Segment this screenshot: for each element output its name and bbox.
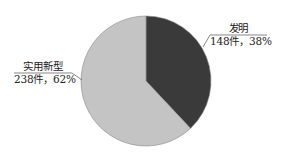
label-utility-name: 实用新型 bbox=[14, 61, 72, 72]
pie-slices bbox=[81, 16, 211, 146]
label-invention-value: 148件，38% bbox=[210, 36, 272, 47]
label-invention-name: 发明 bbox=[210, 23, 267, 34]
label-utility-value: 238件，62% bbox=[14, 74, 76, 85]
